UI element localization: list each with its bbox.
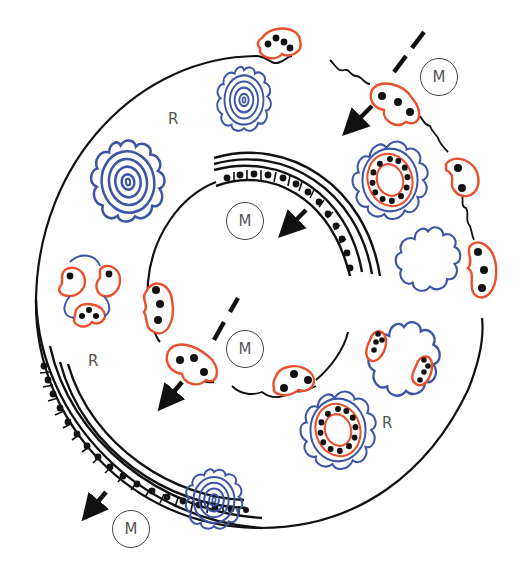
m-text: M: [239, 212, 252, 230]
m-text: M: [125, 520, 138, 538]
m-label-top-right: M: [420, 58, 458, 96]
m-label-bottom-left: M: [112, 510, 150, 548]
m-label-inner-upper: M: [226, 202, 264, 240]
m-text: M: [239, 340, 252, 358]
m-text: M: [433, 68, 446, 86]
concentric-rosette: [217, 67, 271, 131]
r-label-left: R: [88, 352, 98, 370]
r-label-top: R: [168, 110, 178, 128]
r-label-bottom-right: R: [382, 414, 392, 432]
rosette-with-red-ring: [352, 142, 427, 219]
wavy-blob: [396, 227, 461, 290]
rosette-with-red-ring: [300, 392, 375, 469]
m-label-inner-lower: M: [226, 330, 264, 368]
concentric-rosette: [85, 134, 171, 228]
